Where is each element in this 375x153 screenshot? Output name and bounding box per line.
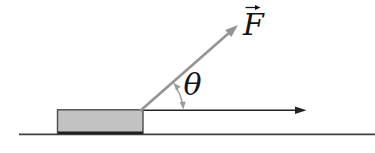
angle-arc: [176, 88, 182, 103]
angle-arc-upper-arrowhead-icon: [173, 83, 180, 91]
physics-diagram: F θ: [0, 0, 375, 153]
angle-label: θ: [184, 67, 202, 102]
block: [58, 110, 144, 134]
angle-arc-lower-arrowhead-icon: [180, 102, 186, 110]
force-label: F: [242, 7, 265, 42]
force-angle-figure: F θ: [0, 0, 375, 153]
horizontal-arrowhead-icon: [295, 106, 307, 114]
